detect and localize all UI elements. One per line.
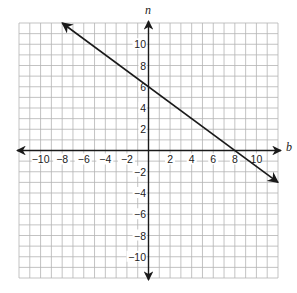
- y-tick-label: 2: [140, 123, 146, 135]
- x-axis-label: b: [286, 140, 292, 154]
- y-tick-label: −4: [134, 187, 146, 199]
- y-tick-label: 8: [140, 60, 146, 72]
- coordinate-plane: −10−8−6−4−2246810−10−8−6−4−2246810 b n: [0, 0, 297, 293]
- x-tick-label: 4: [189, 153, 195, 165]
- x-tick-label: 2: [167, 153, 173, 165]
- x-tick-label: −10: [32, 153, 50, 165]
- x-tick-label: 6: [210, 153, 216, 165]
- x-tick-label: 8: [232, 153, 238, 165]
- x-tick-label: −4: [99, 153, 111, 165]
- y-tick-label: −10: [128, 251, 146, 263]
- y-tick-label: −8: [134, 230, 146, 242]
- y-tick-label: 10: [134, 38, 146, 50]
- x-tick-label: −6: [78, 153, 90, 165]
- y-tick-label: −2: [134, 166, 146, 178]
- x-tick-label: −8: [56, 153, 68, 165]
- y-axis-label: n: [145, 3, 151, 17]
- y-tick-label: −6: [134, 208, 146, 220]
- axes: [17, 21, 281, 280]
- y-tick-label: 4: [140, 102, 146, 114]
- x-tick-label: −2: [121, 153, 133, 165]
